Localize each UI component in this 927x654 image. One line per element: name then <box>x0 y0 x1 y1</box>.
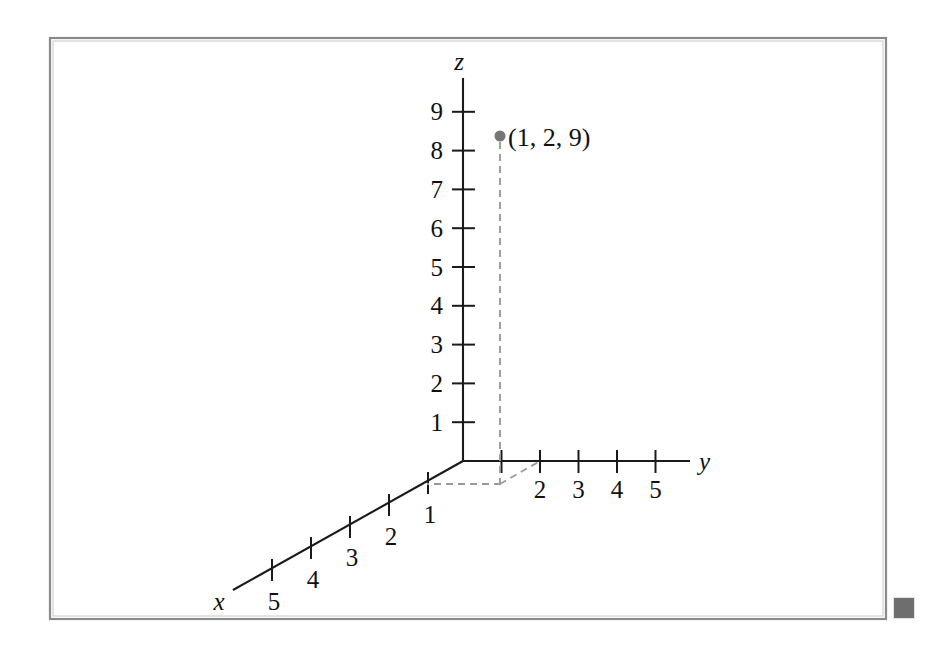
x-axis-group: 1 2 3 4 5 x <box>212 461 463 615</box>
z-tick-label-7: 7 <box>431 176 444 203</box>
z-axis-group: 1 2 3 4 5 6 7 8 9 z <box>431 48 476 461</box>
frame-border-outer <box>50 38 886 619</box>
y-tick-label-5: 5 <box>649 476 662 503</box>
z-axis-label: z <box>453 48 464 75</box>
figure-frame <box>50 38 886 619</box>
z-tick-label-6: 6 <box>431 215 444 242</box>
coordinate-system-plot: 1 2 3 4 5 6 7 8 9 z 2 <box>0 0 927 654</box>
data-point-marker[interactable] <box>495 131 506 142</box>
z-tick-label-4: 4 <box>431 292 444 319</box>
z-tick-label-9: 9 <box>431 98 444 125</box>
figure-root: 1 2 3 4 5 6 7 8 9 z 2 <box>0 0 927 654</box>
z-tick-label-8: 8 <box>431 137 444 164</box>
x-tick-label-3: 3 <box>346 544 359 571</box>
x-tick-label-2: 2 <box>385 523 398 550</box>
z-tick-label-5: 5 <box>431 254 444 281</box>
z-axis-tick-labels: 1 2 3 4 5 6 7 8 9 <box>431 98 444 436</box>
z-tick-label-2: 2 <box>431 370 444 397</box>
x-axis-label: x <box>212 588 224 615</box>
x-tick-label-5: 5 <box>268 588 281 615</box>
frame-border-inner <box>53 41 883 616</box>
y-axis-label: y <box>696 448 711 475</box>
z-tick-label-1: 1 <box>431 409 444 436</box>
x-tick-label-4: 4 <box>307 566 320 593</box>
data-point-label: (1, 2, 9) <box>508 123 590 152</box>
x-axis-tick-labels: 1 2 3 4 5 <box>268 501 437 615</box>
y-tick-label-3: 3 <box>572 476 585 503</box>
y-tick-label-4: 4 <box>611 476 624 503</box>
plotted-point-group[interactable]: (1, 2, 9) <box>495 123 591 152</box>
y-tick-label-2: 2 <box>534 476 547 503</box>
corner-gray-swatch <box>893 597 915 619</box>
z-tick-label-3: 3 <box>431 331 444 358</box>
y-axis-tick-labels: 2 3 4 5 <box>534 476 662 503</box>
x-tick-label-1: 1 <box>424 501 437 528</box>
projection-lines-group <box>427 142 540 484</box>
